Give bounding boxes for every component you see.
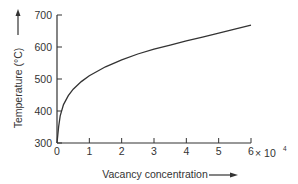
y-tick-label: 700 — [34, 9, 52, 21]
axes — [57, 15, 251, 143]
data-line — [57, 25, 251, 143]
y-tick-label: 400 — [34, 105, 52, 117]
y-axis-label-group: Temperature (°C) — [12, 9, 24, 128]
x-tick-label: 5 — [216, 145, 222, 157]
line-chart: Temperature (°C) 300400500600700 0123456… — [0, 0, 298, 184]
y-tick-label: 600 — [34, 41, 52, 53]
x-tick-label: 4 — [183, 145, 189, 157]
x-tick-label: 2 — [119, 145, 125, 157]
chart-container: Temperature (°C) 300400500600700 0123456… — [0, 0, 298, 184]
y-tick-label: 500 — [34, 73, 52, 85]
y-tick-label: 300 — [34, 137, 52, 149]
y-axis-label: Temperature (°C) — [12, 48, 24, 129]
x-tick-label: 0 — [54, 145, 60, 157]
x-multiplier-label: × 10 — [255, 147, 276, 159]
x-tick-label: 6 — [248, 145, 254, 157]
x-tick-label: 3 — [151, 145, 157, 157]
x-multiplier-exponent: 4 — [283, 145, 287, 152]
right-arrow-head — [230, 173, 238, 178]
up-arrow-head — [16, 9, 21, 16]
x-tick-label: 1 — [86, 145, 92, 157]
x-ticks: 0123456 — [54, 138, 254, 157]
x-axis-label: Vacancy concentration — [102, 168, 208, 180]
